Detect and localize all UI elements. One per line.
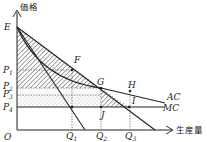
dotted-region [17,95,101,107]
label-q3: Q3 [125,131,136,142]
label-f: F [73,55,81,65]
point-i [128,106,131,109]
point-j [100,106,103,109]
label-p1: P1 [2,65,13,76]
label-ac: AC [166,92,180,102]
point-g [100,87,103,90]
label-j: J [99,110,106,120]
label-q2: Q2 [96,131,107,142]
x-axis-label: 生産量 [176,125,203,135]
point-f [71,69,74,72]
economics-diagram: 価格 生産量 O E F G H I J AC MC P1 P2 P3 P4 Q… [0,0,207,142]
label-i: I [131,96,136,106]
label-mc: MC [162,103,179,113]
label-p4: P4 [2,102,13,113]
origin-label: O [4,132,12,142]
label-g: G [97,77,104,87]
point-q1-mc [71,106,74,109]
point-h [129,90,132,93]
y-axis-label: 価格 [20,2,38,12]
label-h: H [127,80,136,90]
label-q1: Q1 [66,131,77,142]
label-e: E [3,22,11,32]
